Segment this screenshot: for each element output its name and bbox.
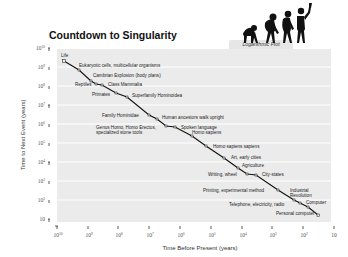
label-reptiles: Reptiles — [75, 82, 92, 87]
label-homo-sapiens: Homo sapiens — [192, 130, 222, 135]
svg-text:103: 103 — [38, 178, 46, 185]
y-tick-labels: 1010 109 108 107 106 105 104 103 102 10 — [36, 45, 45, 223]
label-art-cities: Art, early cities — [231, 155, 262, 160]
y-axis-ticks — [48, 48, 50, 222]
label-writing-wheel: Writing, wheel — [208, 172, 237, 177]
svg-text:107: 107 — [146, 232, 154, 239]
svg-text:102: 102 — [38, 197, 46, 204]
label-homo-sapiens-sapiens: Homo sapiens sapiens — [213, 144, 260, 149]
label-city-states: City-states — [262, 172, 284, 177]
svg-text:107: 107 — [38, 102, 46, 109]
svg-text:104: 104 — [239, 232, 247, 239]
label-genus-homo-line2: specialized stone tools — [96, 130, 143, 135]
svg-text:109: 109 — [38, 64, 46, 71]
label-cambrian: Cambrian Explosion (body plans) — [93, 73, 161, 78]
svg-text:108: 108 — [115, 232, 123, 239]
svg-text:104: 104 — [38, 159, 46, 166]
label-agriculture: Agriculture — [242, 163, 264, 168]
label-upright: Human ancestors walk upright — [162, 115, 225, 120]
svg-text:106: 106 — [177, 232, 185, 239]
svg-text:105: 105 — [38, 140, 46, 147]
svg-text:1010: 1010 — [36, 45, 45, 52]
label-computer: Computer — [306, 200, 327, 205]
svg-text:103: 103 — [269, 232, 277, 239]
x-axis-ticks — [55, 226, 334, 229]
label-printing: Printing, experimental method — [203, 188, 264, 193]
svg-text:108: 108 — [38, 83, 46, 90]
svg-text:105: 105 — [208, 232, 216, 239]
x-tick-labels: 1010 109 108 107 106 105 104 103 102 10 — [54, 232, 338, 239]
label-life: Life — [61, 53, 69, 58]
evolution-silhouettes-icon — [238, 2, 314, 46]
y-axis-title: Time to Next Event (years) — [20, 99, 26, 170]
label-hominoidea: Superfamily Hominoidea — [132, 93, 182, 98]
label-personal-computer: Personal computer — [276, 211, 315, 216]
svg-text:1010: 1010 — [54, 232, 63, 239]
label-hominidae: Family Hominidae — [102, 113, 139, 118]
svg-text:10: 10 — [331, 232, 337, 238]
svg-text:102: 102 — [300, 232, 308, 239]
svg-text:109: 109 — [85, 232, 93, 239]
svg-text:10: 10 — [40, 216, 46, 222]
label-primates: Primates — [92, 92, 111, 97]
label-industrial-line2: Revolution — [290, 193, 312, 198]
label-eukaryotic: Eukaryotic cells, multicellular organism… — [79, 63, 161, 68]
label-mammalia: Class Mammalia — [108, 82, 142, 87]
label-telephone: Telephone, electricity, radio — [229, 202, 285, 207]
x-axis-title: Time Before Present (years) — [162, 245, 237, 251]
svg-text:106: 106 — [38, 121, 46, 128]
